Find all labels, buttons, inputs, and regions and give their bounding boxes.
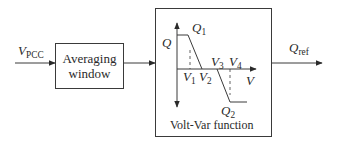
v2-subscript: 2 (207, 76, 212, 86)
v1-subscript: 1 (191, 76, 196, 86)
output-label: Qref (289, 41, 309, 54)
v3-label: V3 (211, 55, 224, 68)
v2-label: V2 (199, 70, 212, 83)
q2-label: Q2 (221, 104, 235, 117)
q-axis-label-text: Q (162, 35, 171, 50)
input-subscript: PCC (26, 50, 44, 60)
v-axis-label-text: V (246, 73, 254, 88)
output-symbol: Q (289, 40, 298, 55)
q2-symbol: Q (221, 103, 230, 118)
input-label: VPCC (18, 44, 44, 57)
v2-symbol: V (199, 69, 207, 84)
averaging-window-label: Averaging window (56, 51, 123, 81)
output-subscript: ref (298, 47, 308, 57)
diagram-canvas (0, 0, 337, 141)
v3-subscript: 3 (219, 61, 224, 71)
v-axis-label: V (246, 74, 254, 87)
q-axis-label: Q (162, 36, 171, 49)
q1-label: Q1 (192, 21, 206, 34)
v4-label: V4 (229, 55, 242, 68)
v4-subscript: 4 (237, 61, 242, 71)
voltvar-curve-upper (177, 35, 202, 69)
input-symbol: V (18, 43, 26, 58)
v1-symbol: V (183, 69, 191, 84)
averaging-label-line2: window (56, 66, 123, 81)
q1-symbol: Q (192, 20, 201, 35)
voltvar-caption-text: Volt-Var function (170, 118, 253, 132)
averaging-label-line1: Averaging (56, 51, 123, 66)
voltvar-curve-lower (217, 69, 247, 102)
q1-subscript: 1 (201, 27, 206, 37)
v1-label: V1 (183, 70, 196, 83)
v4-symbol: V (229, 54, 237, 69)
voltvar-caption: Volt-Var function (170, 119, 253, 131)
v3-symbol: V (211, 54, 219, 69)
